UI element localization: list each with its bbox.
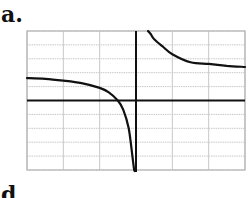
graph-a	[0, 0, 250, 198]
curve-left-branch	[27, 78, 135, 171]
curve-right-branch	[148, 31, 245, 67]
